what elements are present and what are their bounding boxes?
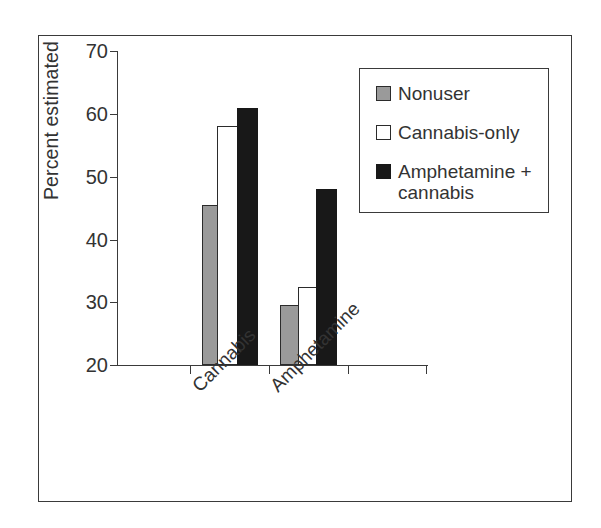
legend-item-cannabis-only: Cannabis-only xyxy=(376,122,519,143)
figure: Percent estimated 70 60 50 40 30 20 xyxy=(0,0,601,528)
legend-label-cannabis-only: Cannabis-only xyxy=(398,122,519,143)
legend-item-nonuser: Nonuser xyxy=(376,83,470,104)
legend-item-amphetamine-cannabis: Amphetamine + cannabis xyxy=(376,161,532,203)
legend-label-nonuser: Nonuser xyxy=(398,83,470,104)
legend-swatch-amphetamine-cannabis-icon xyxy=(376,164,391,179)
legend-swatch-cannabis-only-icon xyxy=(376,125,391,140)
legend-label-amphetamine-cannabis: Amphetamine + cannabis xyxy=(398,161,532,203)
legend: Nonuser Cannabis-only Amphetamine + cann… xyxy=(359,68,549,213)
legend-swatch-nonuser-icon xyxy=(376,86,391,101)
